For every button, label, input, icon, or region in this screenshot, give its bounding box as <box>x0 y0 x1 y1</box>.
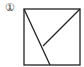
segment-diagonal-from-top-left <box>24 9 50 65</box>
divided-square-diagram <box>0 0 84 67</box>
segment-from-top-right-corner <box>43 9 80 46</box>
